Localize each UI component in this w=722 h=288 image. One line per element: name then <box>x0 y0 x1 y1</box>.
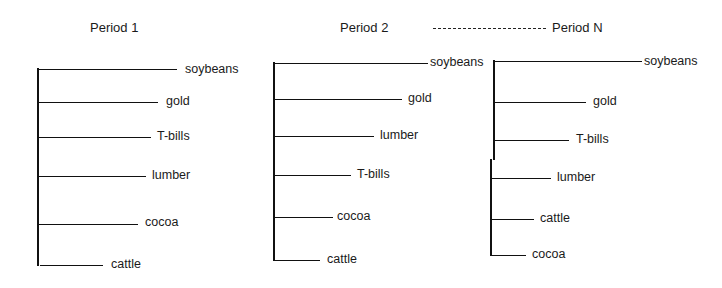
period-2-item: cattle <box>327 252 357 266</box>
period-2-branch <box>274 175 351 176</box>
period-2-trunk <box>273 62 275 261</box>
period-n-trunk-lower <box>490 159 492 256</box>
period-2-branch <box>274 136 374 137</box>
period-1-branch <box>38 137 151 138</box>
period-2-branch <box>273 63 428 64</box>
period-n-trunk <box>493 60 495 160</box>
period-n-branch <box>491 178 551 179</box>
period-2-item: soybeans <box>430 55 484 69</box>
period-n-branch <box>493 140 569 141</box>
period-n-item: T-bills <box>576 132 609 146</box>
period-2-item: cocoa <box>337 209 370 223</box>
period-1-branch <box>40 265 103 266</box>
period-n-branch <box>494 61 642 62</box>
period-n-branch <box>490 219 534 220</box>
period-n-title: Period N <box>552 21 603 35</box>
period-1-title: Period 1 <box>90 21 138 35</box>
period-1-branch <box>39 176 146 177</box>
period-1-item: lumber <box>152 168 190 182</box>
period-2-branch <box>274 217 333 218</box>
period-n-item: gold <box>593 94 617 108</box>
period-1-item: gold <box>166 94 190 108</box>
period-2-title: Period 2 <box>340 21 388 35</box>
period-2-branch <box>274 99 402 100</box>
ellipsis-dashes <box>433 28 546 29</box>
period-n-item: cocoa <box>532 247 565 261</box>
period-n-branch <box>493 102 586 103</box>
period-n-item: soybeans <box>644 54 698 68</box>
period-1-item: T-bills <box>157 129 190 143</box>
period-2-item: T-bills <box>357 167 390 181</box>
period-2-item: gold <box>408 91 432 105</box>
period-n-branch <box>490 255 526 256</box>
period-1-item: cocoa <box>145 215 178 229</box>
period-n-item: lumber <box>557 170 595 184</box>
period-n-item: cattle <box>540 211 570 225</box>
period-1-trunk <box>37 68 39 266</box>
period-1-item: cattle <box>111 257 141 271</box>
period-1-branch <box>37 69 177 70</box>
period-1-item: soybeans <box>185 62 239 76</box>
period-2-item: lumber <box>380 128 418 142</box>
period-2-branch <box>274 260 320 261</box>
period-1-branch <box>38 102 158 103</box>
period-1-branch <box>39 224 138 225</box>
